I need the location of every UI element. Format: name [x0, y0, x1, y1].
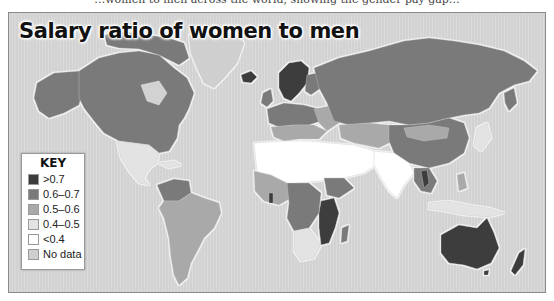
- region-scandinavia: [279, 61, 309, 101]
- legend-title: KEY: [22, 156, 84, 170]
- caption-fragment: …women to men across the world, showing …: [0, 0, 554, 6]
- region-kamchatka: [504, 88, 517, 111]
- region-east-africa: [319, 198, 339, 245]
- legend-item: No data: [28, 248, 82, 260]
- legend-swatch: [28, 204, 39, 215]
- region-philippines: [457, 173, 467, 191]
- legend-label: 0.5–0.6: [43, 203, 80, 215]
- legend-swatch: [28, 249, 39, 260]
- region-alaska: [34, 71, 84, 118]
- legend-item: >0.7: [28, 173, 65, 185]
- map-title: Salary ratio of women to men: [19, 19, 359, 43]
- legend-swatch: [28, 174, 39, 185]
- region-southern-europe: [271, 125, 327, 141]
- map-frame: Salary ratio of women to men KEY >0.7 0.…: [8, 12, 546, 293]
- region-south-america: [159, 193, 221, 285]
- legend-item: 0.5–0.6: [28, 203, 80, 215]
- legend-label: No data: [43, 248, 82, 260]
- region-japan: [474, 123, 491, 151]
- cropped-caption-above: …women to men across the world, showing …: [0, 0, 554, 10]
- map-legend: KEY >0.7 0.6–0.7 0.5–0.6 0.4–0.5 <0.4 No…: [21, 153, 85, 270]
- legend-item: <0.4: [28, 233, 65, 245]
- legend-item: 0.6–0.7: [28, 188, 80, 200]
- region-canada-usa: [79, 51, 194, 153]
- region-caribbean: [159, 161, 181, 168]
- legend-label: >0.7: [43, 173, 65, 185]
- legend-swatch: [28, 234, 39, 245]
- legend-item: 0.4–0.5: [28, 218, 80, 230]
- region-australia: [441, 218, 499, 269]
- legend-label: 0.4–0.5: [43, 218, 80, 230]
- legend-swatch: [28, 189, 39, 200]
- region-new-zealand: [511, 249, 525, 275]
- region-uk: [261, 89, 273, 107]
- region-horn-of-africa: [324, 178, 354, 198]
- region-madagascar: [341, 225, 349, 243]
- legend-swatch: [28, 219, 39, 230]
- world-map: [9, 13, 545, 292]
- legend-label: 0.6–0.7: [43, 188, 80, 200]
- region-russia: [314, 38, 537, 125]
- region-indonesia: [429, 201, 504, 217]
- region-central-africa: [287, 183, 321, 231]
- region-southern-africa: [294, 228, 321, 261]
- region-iceland: [241, 71, 257, 83]
- legend-label: <0.4: [43, 233, 65, 245]
- region-tasmania: [484, 270, 489, 275]
- region-west-africa-dark: [269, 193, 273, 203]
- region-western-europe: [267, 103, 321, 127]
